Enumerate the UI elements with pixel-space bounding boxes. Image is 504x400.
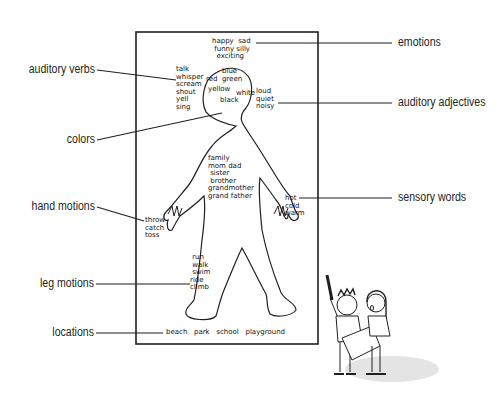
ground-shadow bbox=[345, 356, 439, 382]
handwritten-hand-motions: throw catch toss bbox=[145, 217, 165, 240]
handwritten-leg-motions: run walk swim ride climb bbox=[190, 254, 210, 292]
label-colors: colors bbox=[11, 132, 95, 146]
handwritten-family: family mom dad sister brother grandmothe… bbox=[208, 155, 254, 200]
handwritten-colors-black: black bbox=[220, 97, 239, 105]
handwritten-locations: beach park school playground bbox=[166, 329, 285, 337]
handwritten-colors-yellow: yellow bbox=[208, 86, 230, 94]
label-auditory-adjectives: auditory adjectives bbox=[398, 95, 485, 109]
label-sensory-words: sensory words bbox=[398, 190, 466, 204]
handwritten-auditory-adjectives: loud quiet noisy bbox=[256, 88, 274, 111]
label-locations: locations bbox=[11, 325, 94, 339]
label-hand-motions: hand motions bbox=[11, 199, 95, 213]
handwritten-emotions: happy sad funny silly exciting bbox=[212, 38, 251, 61]
label-auditory-verbs: auditory verbs bbox=[11, 62, 95, 76]
handwritten-sensory: hot cold warm bbox=[285, 195, 305, 218]
label-leg-motions: leg motions bbox=[11, 276, 94, 290]
label-emotions: emotions bbox=[398, 35, 441, 49]
handwritten-colors-red-green: red green bbox=[206, 76, 242, 84]
handwritten-auditory-verbs: talk whisper scream shout yell sing bbox=[176, 66, 203, 111]
